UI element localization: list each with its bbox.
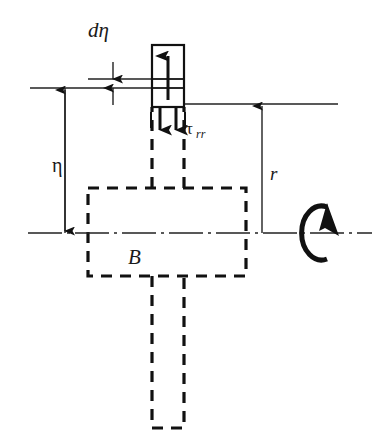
diagram-svg: dη η r B τ rr <box>0 0 381 442</box>
label-d-eta: dη <box>88 18 109 42</box>
downward-stress-arrows <box>151 108 185 130</box>
label-B: B <box>128 245 141 269</box>
upper-stem-sides <box>152 107 184 188</box>
rotation-arrow-symbol <box>302 203 339 260</box>
body-rect-outline <box>88 188 246 276</box>
label-tau-symbol: τ <box>186 119 193 138</box>
label-r: r <box>270 163 278 184</box>
label-tau-rr: τ rr <box>186 119 206 141</box>
dashed-body-region-B <box>88 107 246 428</box>
figure-canvas: dη η r B τ rr <box>0 0 381 442</box>
label-eta: η <box>52 154 62 177</box>
label-tau-subscript: rr <box>196 127 206 141</box>
stress-element-box <box>152 45 184 107</box>
lower-stem-outline <box>152 276 184 428</box>
